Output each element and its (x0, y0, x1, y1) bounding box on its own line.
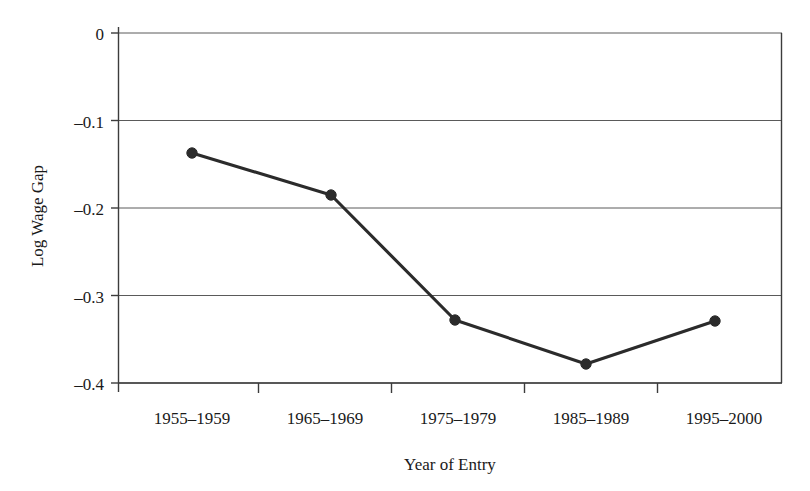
x-tick-label-1965-1969: 1965–1969 (287, 409, 364, 428)
x-tick-label-1955-1959: 1955–1959 (154, 409, 231, 428)
y-tick-labels: 0 –0.1 –0.2 –0.3 –0.4 (73, 25, 104, 394)
axes (118, 27, 782, 392)
x-tick-label-1975-1979: 1975–1979 (420, 409, 497, 428)
y-tickmarks (111, 33, 118, 383)
x-axis-title: Year of Entry (404, 455, 496, 474)
y-tick-label-0: 0 (96, 25, 105, 44)
y-tick-label-neg-0-2: –0.2 (73, 200, 104, 219)
y-tick-label-neg-0-1: –0.1 (73, 113, 104, 132)
series-line-log-wage-gap (192, 153, 715, 364)
x-tickmarks (259, 383, 658, 393)
y-tick-label-neg-0-4: –0.4 (73, 375, 104, 394)
y-tick-label-neg-0-3: –0.3 (73, 288, 104, 307)
data-point-1965-1969 (326, 190, 336, 200)
data-series (187, 148, 720, 369)
data-point-1955-1959 (187, 148, 197, 158)
data-point-1985-1989 (581, 359, 591, 369)
chart-figure: 0 –0.1 –0.2 –0.3 –0.4 1955–1959 1965–196… (0, 0, 810, 491)
data-point-1995-2000 (710, 316, 720, 326)
x-tick-label-1995-2000: 1995–2000 (686, 409, 763, 428)
y-axis-title: Log Wage Gap (28, 165, 47, 267)
x-tick-label-1985-1989: 1985–1989 (553, 409, 630, 428)
x-tick-labels: 1955–1959 1965–1969 1975–1979 1985–1989 … (154, 409, 763, 428)
line-chart: 0 –0.1 –0.2 –0.3 –0.4 1955–1959 1965–196… (0, 0, 810, 491)
data-point-1975-1979 (450, 315, 460, 325)
